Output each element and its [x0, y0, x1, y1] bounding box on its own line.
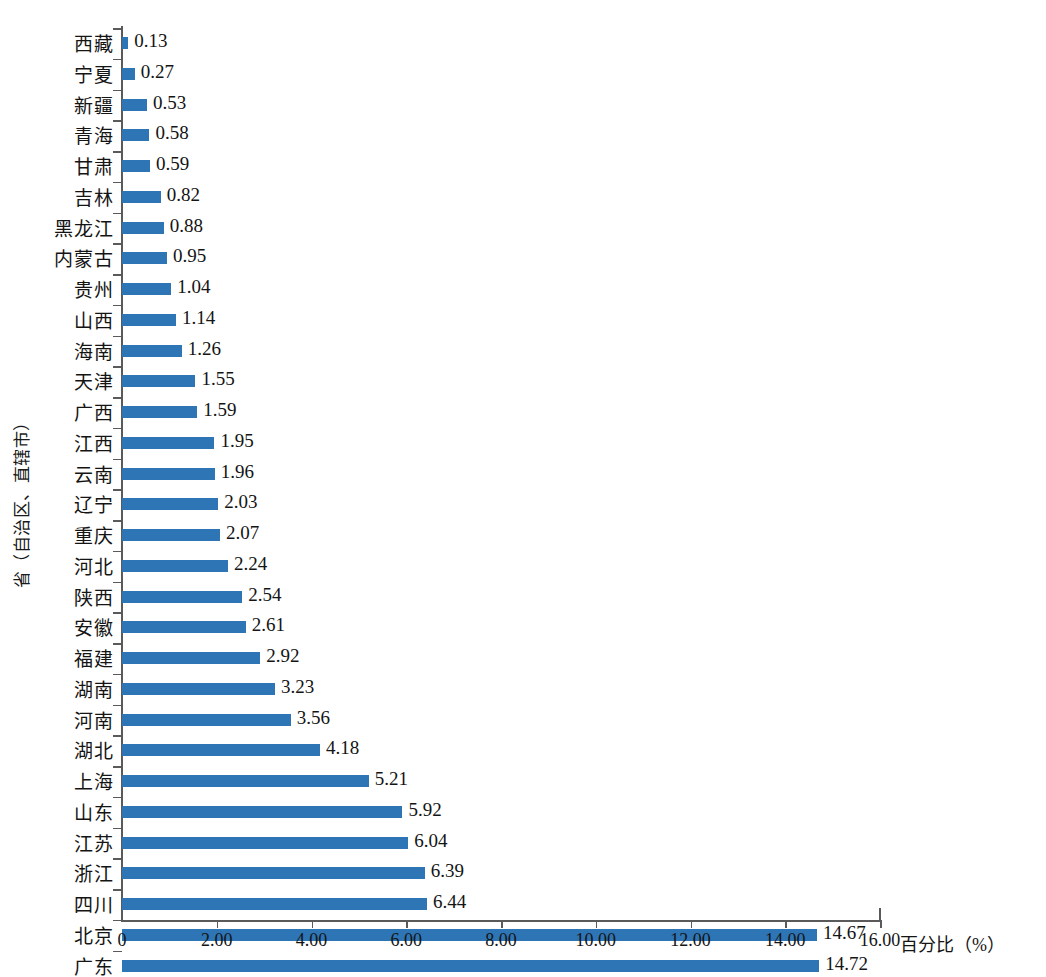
- category-label: 甘肃: [0, 152, 114, 179]
- bar: [122, 529, 220, 541]
- bar-value-label: 2.61: [252, 614, 285, 636]
- bar: [122, 191, 161, 203]
- category-label: 北京: [0, 921, 114, 948]
- bar-row: 山东5.92: [122, 797, 880, 828]
- bar-chart: 省（自治区、直辖市） 西藏0.13宁夏0.27新疆0.53青海0.58甘肃0.5…: [0, 0, 1046, 977]
- x-axis-tick: [785, 920, 787, 928]
- category-label: 青海: [0, 121, 114, 148]
- bar: [122, 683, 275, 695]
- x-axis-tick: [691, 920, 693, 928]
- bar: [122, 68, 135, 80]
- bar: [122, 621, 246, 633]
- x-axis-tick-label: 6.00: [391, 930, 423, 951]
- bar-row: 湖北4.18: [122, 735, 880, 766]
- bar: [122, 468, 215, 480]
- bar-row: 宁夏0.27: [122, 59, 880, 90]
- bar-value-label: 0.13: [134, 30, 167, 52]
- bar: [122, 437, 214, 449]
- category-label: 辽宁: [0, 490, 114, 517]
- bar-value-label: 6.04: [414, 830, 447, 852]
- x-axis-tick-label: 8.00: [485, 930, 517, 951]
- bar-row: 浙江6.39: [122, 858, 880, 889]
- bar-row: 广东14.72: [122, 951, 880, 977]
- x-axis-tick-label: 14.00: [765, 930, 806, 951]
- category-label: 安徽: [0, 613, 114, 640]
- bar-row: 内蒙古0.95: [122, 243, 880, 274]
- bar: [122, 775, 369, 787]
- x-axis-tick: [596, 920, 598, 928]
- bar-row: 安徽2.61: [122, 612, 880, 643]
- category-label: 陕西: [0, 583, 114, 610]
- bar: [122, 867, 425, 879]
- y-axis-tick: [113, 489, 122, 491]
- y-axis-tick: [113, 643, 122, 645]
- category-label: 黑龙江: [0, 214, 114, 241]
- y-axis-tick: [113, 735, 122, 737]
- bar: [122, 652, 260, 664]
- category-label: 浙江: [0, 859, 114, 886]
- bar: [122, 591, 242, 603]
- y-axis-tick: [113, 336, 122, 338]
- bar-value-label: 1.96: [221, 461, 254, 483]
- category-label: 河南: [0, 706, 114, 733]
- bar-value-label: 6.44: [433, 891, 466, 913]
- category-label: 上海: [0, 767, 114, 794]
- bar-row: 河南3.56: [122, 705, 880, 736]
- category-label: 山东: [0, 798, 114, 825]
- bar: [122, 560, 228, 572]
- bar: [122, 406, 197, 418]
- category-label: 湖南: [0, 675, 114, 702]
- bar-value-label: 4.18: [326, 737, 359, 759]
- x-axis-tick-label: 12.00: [670, 930, 711, 951]
- bar-row: 陕西2.54: [122, 582, 880, 613]
- bar-row: 江西1.95: [122, 428, 880, 459]
- y-axis-tick: [113, 828, 122, 830]
- y-axis-tick: [113, 428, 122, 430]
- category-label: 云南: [0, 460, 114, 487]
- bar-row: 江苏6.04: [122, 828, 880, 859]
- y-axis-tick: [113, 551, 122, 553]
- bar: [122, 99, 147, 111]
- category-label: 贵州: [0, 275, 114, 302]
- y-axis-tick: [113, 397, 122, 399]
- y-axis-tick: [113, 705, 122, 707]
- bar-value-label: 0.88: [170, 215, 203, 237]
- y-axis-tick: [113, 582, 122, 584]
- bar-row: 云南1.96: [122, 459, 880, 490]
- x-axis-tick-label: 16.00: [860, 930, 901, 951]
- bar-row: 贵州1.04: [122, 274, 880, 305]
- bar-value-label: 2.92: [266, 645, 299, 667]
- category-label: 新疆: [0, 91, 114, 118]
- bar-value-label: 5.92: [408, 799, 441, 821]
- x-axis-title: 百分比（%）: [900, 930, 1005, 956]
- y-axis-tick: [113, 213, 122, 215]
- y-axis-tick: [113, 28, 122, 30]
- x-axis-tick-label: 2.00: [201, 930, 233, 951]
- x-axis-tick: [406, 920, 408, 928]
- plot-area: 西藏0.13宁夏0.27新疆0.53青海0.58甘肃0.59吉林0.82黑龙江0…: [122, 28, 880, 920]
- x-axis-tick: [880, 920, 882, 928]
- bar-row: 海南1.26: [122, 336, 880, 367]
- bar-value-label: 1.14: [182, 307, 215, 329]
- category-label: 西藏: [0, 29, 114, 56]
- bar: [122, 345, 182, 357]
- bar-value-label: 1.59: [203, 399, 236, 421]
- y-axis-tick: [113, 889, 122, 891]
- bar-value-label: 0.27: [141, 61, 174, 83]
- category-label: 江西: [0, 429, 114, 456]
- bar: [122, 283, 171, 295]
- bar-row: 上海5.21: [122, 766, 880, 797]
- category-label: 山西: [0, 306, 114, 333]
- y-axis-tick: [113, 151, 122, 153]
- bar: [122, 252, 167, 264]
- bar: [122, 129, 149, 141]
- category-label: 广西: [0, 398, 114, 425]
- y-axis-tick: [113, 612, 122, 614]
- bar-value-label: 1.04: [177, 276, 210, 298]
- bar-row: 河北2.24: [122, 551, 880, 582]
- bar: [122, 498, 218, 510]
- category-label: 福建: [0, 644, 114, 671]
- bar: [122, 837, 408, 849]
- bar: [122, 37, 128, 49]
- bar-value-label: 1.26: [188, 338, 221, 360]
